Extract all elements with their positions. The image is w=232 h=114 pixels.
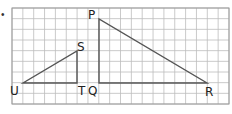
vertex-labels: UTQSPR [10,8,213,99]
vertex-label-u: U [10,84,19,98]
vertex-label-q: Q [88,84,97,98]
similar-triangles-diagram: UTQSPR [0,0,232,114]
vertex-label-p: P [88,8,95,22]
vertex-label-s: S [77,40,85,54]
grid-paper [12,8,229,104]
vertex-label-r: R [205,85,213,99]
vertex-label-t: T [77,84,86,98]
triangle-stu [23,51,77,83]
